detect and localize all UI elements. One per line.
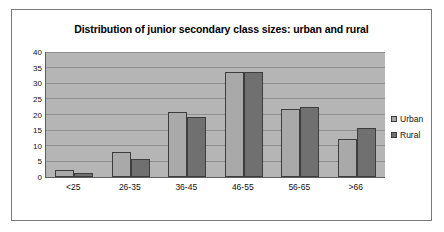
bar-rural-2 (187, 117, 206, 177)
x-axis-tick-labels: <2526-3536-4546-5556-65>66 (45, 182, 384, 198)
chart-title: Distribution of junior secondary class s… (12, 23, 431, 35)
bar-urban-3 (225, 72, 244, 177)
x-axis-tick-label: 56-65 (288, 182, 310, 192)
bar-group (159, 52, 216, 177)
legend-swatch-icon (391, 116, 397, 122)
bar-group (46, 52, 103, 177)
legend-item-urban[interactable]: Urban (391, 114, 435, 124)
bar-rural-0 (74, 173, 93, 177)
bar-group (329, 52, 386, 177)
bar-rural-5 (357, 128, 376, 177)
chart-frame: Distribution of junior secondary class s… (11, 9, 432, 221)
y-axis-tick-label: 10 (33, 141, 42, 150)
bar-urban-0 (55, 170, 74, 177)
y-axis-tick-label: 20 (33, 110, 42, 119)
bars-layer (46, 52, 385, 177)
bar-group (216, 52, 273, 177)
y-axis-tick-label: 5 (38, 157, 42, 166)
y-axis-tick-label: 15 (33, 126, 42, 135)
chart-legend: UrbanRural (391, 114, 435, 146)
bar-rural-4 (300, 107, 319, 177)
bar-urban-5 (338, 139, 357, 177)
legend-swatch-icon (391, 132, 397, 138)
bar-rural-3 (244, 72, 263, 177)
x-axis-tick-label: 36-45 (175, 182, 197, 192)
bar-group (272, 52, 329, 177)
y-axis-tick-label: 25 (33, 94, 42, 103)
x-axis-tick-label: 26-35 (119, 182, 141, 192)
x-axis-tick-label: 46-55 (232, 182, 254, 192)
bar-group (103, 52, 160, 177)
bar-rural-1 (131, 159, 150, 177)
legend-item-rural[interactable]: Rural (391, 130, 435, 140)
y-axis-tick-label: 40 (33, 48, 42, 57)
bar-urban-4 (281, 109, 300, 177)
legend-label: Urban (400, 114, 423, 124)
plot-area: 0510152025303540 (45, 52, 385, 178)
bar-urban-2 (168, 112, 187, 177)
y-axis-tick-label: 30 (33, 79, 42, 88)
x-axis-tick-label: >66 (349, 182, 363, 192)
legend-label: Rural (400, 130, 420, 140)
bar-urban-1 (112, 152, 131, 177)
y-axis-tick-label: 0 (38, 173, 42, 182)
x-axis-tick-label: <25 (66, 182, 80, 192)
y-axis-tick-label: 35 (33, 63, 42, 72)
